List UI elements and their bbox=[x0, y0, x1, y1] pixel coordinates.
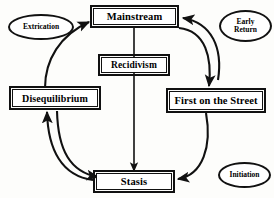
node-mainstream-label: Mainstream bbox=[107, 11, 163, 22]
node-stasis-label: Stasis bbox=[121, 176, 147, 187]
node-stasis[interactable]: Stasis bbox=[96, 173, 172, 190]
edge-stasis-to-disequilibrium bbox=[47, 112, 93, 180]
edge-disequilibrium-to-stasis bbox=[57, 111, 98, 177]
node-extrication[interactable]: Extrication bbox=[8, 14, 74, 40]
edge-first-on-the-street-to-mainstream bbox=[183, 18, 219, 80]
node-early-return-label-line2: Return bbox=[234, 26, 257, 34]
edge-first-on-the-street-to-stasis bbox=[178, 113, 208, 179]
node-first-on-the-street-label: First on the Street bbox=[174, 95, 257, 106]
node-early-return[interactable]: Early Return bbox=[219, 10, 272, 42]
node-initiation-label: Initiation bbox=[229, 171, 259, 179]
flow-diagram: Mainstream Recidivism Disequilibrium Fir… bbox=[0, 0, 274, 198]
node-initiation[interactable]: Initiation bbox=[218, 162, 271, 188]
edge-mainstream-to-first-on-the-street bbox=[179, 28, 210, 86]
node-extrication-label: Extrication bbox=[23, 23, 59, 31]
node-disequilibrium[interactable]: Disequilibrium bbox=[12, 89, 98, 107]
node-mainstream[interactable]: Mainstream bbox=[93, 8, 176, 25]
node-disequilibrium-label: Disequilibrium bbox=[22, 93, 88, 104]
node-first-on-the-street[interactable]: First on the Street bbox=[169, 91, 263, 110]
node-recidivism-label: Recidivism bbox=[111, 60, 157, 70]
node-recidivism[interactable]: Recidivism bbox=[101, 57, 167, 73]
